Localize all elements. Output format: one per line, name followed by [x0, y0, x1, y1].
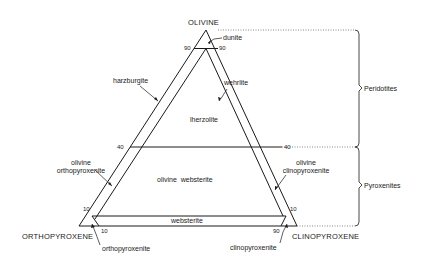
label-olivine-clinopyroxenite-line2: clinopyroxenite — [276, 167, 336, 175]
label-olivine-orthopyroxenite: olivine orthopyroxenite — [46, 159, 116, 175]
label-orthopyroxenite: orthopyroxenite — [102, 245, 150, 253]
tick-opx10: 10 — [101, 227, 108, 235]
vertex-orthopyroxene: ORTHOPYROXENE — [22, 233, 93, 241]
tick-ol40-left: 40 — [117, 143, 124, 151]
label-wehrlite: wehrlite — [224, 79, 248, 87]
tick-ol10-left: 10 — [83, 205, 90, 213]
label-olivine-orthopyroxenite-line2: orthopyroxenite — [46, 167, 116, 175]
tick-cpx90: 90 — [273, 227, 280, 235]
outer-triangle — [79, 30, 297, 226]
vertex-olivine: OLIVINE — [188, 19, 219, 27]
label-olivine-orthopyroxenite-line1: olivine — [46, 159, 116, 167]
label-olivine-clinopyroxenite-line1: olivine — [276, 159, 336, 167]
tick-ol90-left: 90 — [184, 44, 191, 52]
tick-ol40-right: 40 — [284, 143, 291, 151]
line-cpx-corner — [281, 216, 286, 226]
label-lherzolite: lherzolite — [190, 116, 218, 124]
label-olivine-clinopyroxenite: olivine clinopyroxenite — [276, 159, 336, 175]
label-olivine-websterite: olivine websterite — [157, 176, 213, 184]
bracket-peridotites — [355, 30, 362, 147]
vertex-clinopyroxene: CLINOPYROXENE — [292, 233, 359, 241]
label-clinopyroxenite: clinopyroxenite — [230, 244, 277, 252]
arrowhead — [208, 40, 211, 44]
line-opx10 — [206, 49, 283, 217]
label-harzburgite: harzburgite — [113, 77, 148, 85]
ultramafic-classification-diagram — [0, 0, 429, 269]
group-peridotites: Peridotites — [364, 85, 397, 93]
tick-ol90-right: 90 — [219, 44, 226, 52]
group-pyroxenites: Pyroxenites — [364, 182, 401, 190]
label-dunite: dunite — [223, 34, 242, 42]
arrowhead — [154, 97, 158, 101]
line-cpx10 — [95, 49, 206, 220]
tick-ol10-right: 10 — [290, 205, 297, 213]
bracket-pyroxenites — [355, 147, 362, 226]
label-websterite: websterite — [171, 217, 203, 225]
